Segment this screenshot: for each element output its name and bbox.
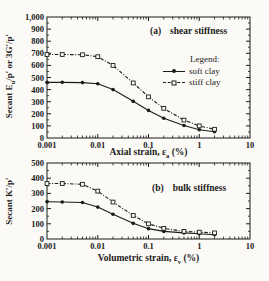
series-stiff-clay-marker: [45, 182, 49, 186]
series-stiff-clay-marker: [162, 106, 166, 110]
chart-b-xlabel-pre: Volumetric strain, ε: [98, 253, 178, 263]
series-soft-clay-marker: [96, 205, 100, 209]
soft-clay-line-sample: [163, 68, 185, 75]
y-tick-label: 0: [40, 133, 44, 143]
legend: Legend: soft clay stiff clay: [157, 54, 257, 89]
chart-a-y-axis-label: Secant Eu/p′ or 3G′/p′: [3, 1, 15, 151]
series-stiff-clay-marker: [147, 222, 151, 226]
y-tick-label: 200: [31, 109, 44, 119]
chart-b-ylabel-post: ′/p′: [4, 177, 14, 190]
series-stiff-clay-marker: [96, 55, 100, 59]
y-tick-label: 400: [31, 85, 44, 95]
chart-a-ylabel-pre: Secant E: [4, 84, 14, 118]
panel-a-label: (a): [150, 26, 161, 36]
series-stiff-clay-marker: [197, 124, 201, 128]
series-soft-clay-marker: [60, 200, 64, 204]
legend-label-soft-clay: soft clay: [189, 66, 220, 78]
y-tick-label: 100: [31, 121, 44, 131]
series-stiff-clay-marker: [182, 118, 186, 122]
series-soft-clay-marker: [81, 201, 85, 205]
open-square-marker-icon: [172, 80, 177, 85]
series-stiff-clay-marker: [81, 182, 85, 186]
chart-a-xlabel-post: (%): [169, 147, 187, 157]
chart-a-xlabel-pre: Axial strain, ε: [109, 147, 166, 157]
y-tick-label: 800: [31, 36, 44, 46]
series-stiff-clay-marker: [197, 230, 201, 234]
x-tick-label: 10: [246, 241, 255, 251]
y-tick-label: 700: [31, 48, 44, 58]
series-soft-clay-marker: [131, 100, 135, 104]
series-soft-clay-line: [47, 82, 215, 131]
series-stiff-clay-marker: [213, 231, 217, 235]
y-tick-label: 200: [31, 204, 44, 214]
y-tick-label: 600: [31, 60, 44, 70]
y-tick-label: 500: [31, 73, 44, 83]
y-tick-label: 1,000: [25, 12, 44, 22]
y-tick-label: 100: [31, 219, 44, 229]
series-stiff-clay-marker: [111, 200, 115, 204]
y-tick-label: 500: [31, 158, 44, 168]
panel-b-label: (b): [152, 183, 164, 193]
series-stiff-clay-marker: [45, 53, 49, 57]
series-stiff-clay-marker: [96, 189, 100, 193]
chart-a-shear-stiffness: 0.0010.010.11100100200300400500600700800…: [0, 0, 269, 158]
panel-b-title-text: bulk stiffness: [173, 183, 227, 193]
stiff-clay-line-sample: [163, 79, 185, 86]
chart-b-bulk-stiffness: 0.0010.010.11100100200300400500 (b)bulk …: [0, 158, 269, 281]
stiffness-figure: 0.0010.010.11100100200300400500600700800…: [0, 0, 269, 281]
y-tick-label: 400: [31, 173, 44, 183]
series-stiff-clay-marker: [81, 53, 85, 57]
series-stiff-clay-marker: [147, 95, 151, 99]
chart-a-ylabel-sub: u: [9, 81, 16, 85]
chart-b-x-axis-label: Volumetric strain, εv (%): [47, 253, 250, 267]
filled-circle-marker-icon: [172, 69, 176, 73]
panel-a-title: (a)shear stiffness: [150, 26, 227, 36]
y-tick-label: 300: [31, 97, 44, 107]
series-soft-clay-marker: [96, 82, 100, 86]
y-tick-label: 900: [31, 24, 44, 34]
chart-b-y-axis-label: Secant K′/p′: [3, 141, 15, 261]
legend-label-stiff-clay: stiff clay: [189, 77, 221, 89]
series-soft-clay-line: [47, 202, 215, 235]
series-soft-clay-marker: [45, 200, 49, 204]
series-soft-clay-marker: [45, 81, 49, 85]
series-soft-clay-marker: [182, 124, 186, 128]
series-stiff-clay-marker: [60, 182, 64, 186]
series-soft-clay-marker: [131, 222, 135, 226]
series-soft-clay-marker: [162, 116, 166, 120]
series-stiff-clay-marker: [111, 64, 115, 68]
y-tick-label: 300: [31, 188, 44, 198]
series-soft-clay-marker: [111, 212, 115, 216]
series-soft-clay-marker: [197, 128, 201, 132]
series-soft-clay-marker: [147, 109, 151, 113]
legend-title: Legend:: [190, 54, 257, 66]
series-soft-clay-marker: [147, 227, 151, 231]
x-tick-label: 0.01: [90, 241, 105, 251]
series-soft-clay-marker: [60, 81, 64, 85]
series-stiff-clay-marker: [162, 226, 166, 230]
series-stiff-clay-marker: [213, 127, 217, 131]
series-stiff-clay-marker: [60, 53, 64, 57]
panel-b-title: (b)bulk stiffness: [152, 183, 226, 193]
series-stiff-clay-marker: [131, 81, 135, 85]
panel-a-title-text: shear stiffness: [170, 26, 227, 36]
series-soft-clay-marker: [81, 81, 85, 85]
y-tick-label: 0: [40, 234, 44, 244]
chart-b-xlabel-post: (%): [181, 253, 199, 263]
series-soft-clay-marker: [111, 88, 115, 92]
x-tick-label: 0.1: [143, 241, 154, 251]
series-stiff-clay-marker: [182, 230, 186, 234]
chart-b-ylabel-pre: Secant K: [4, 190, 14, 225]
chart-a-ylabel-post: /p′ or 3G′/p′: [4, 34, 14, 81]
legend-entry-stiff-clay: stiff clay: [157, 77, 257, 89]
x-tick-label: 1: [197, 241, 201, 251]
series-stiff-clay-marker: [131, 214, 135, 218]
legend-entry-soft-clay: soft clay: [157, 66, 257, 78]
